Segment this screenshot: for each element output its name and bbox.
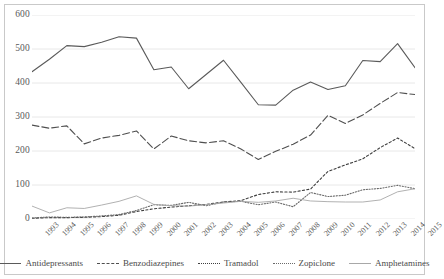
series-line-tramadol [32, 138, 415, 218]
legend-label: Tramadol [224, 258, 259, 268]
legend-label: Antidepressants [25, 258, 83, 268]
series-line-amphetamines [32, 189, 415, 213]
legend-label: Benzodiazepines [123, 258, 184, 268]
plot-area [32, 15, 415, 219]
x-axis-tick-label: 1993 [44, 221, 61, 238]
legend-item-amphetamines[interactable]: Amphetamines [349, 258, 430, 268]
x-axis-tick-label: 2000 [166, 221, 183, 238]
x-axis-tick-label: 2008 [305, 221, 322, 238]
legend-label: Amphetamines [375, 258, 430, 268]
y-axis-tick-label: 500 [2, 44, 30, 54]
legend-swatch-amphetamines [349, 263, 371, 264]
series-line-benzodiazepines [32, 93, 415, 160]
y-axis-tick-label: 0 [2, 214, 30, 224]
x-axis-tick-label: 1994 [61, 221, 78, 238]
x-axis-tick-label: 2002 [200, 221, 217, 238]
y-axis-labels: 6005004003002001000 [0, 0, 30, 240]
chart-legend: AntidepressantsBenzodiazepinesTramadolZo… [4, 255, 425, 271]
legend-swatch-antidepressants [0, 263, 21, 264]
x-axis-tick-label: 2012 [374, 221, 391, 238]
x-axis-tick-label: 2009 [322, 221, 339, 238]
x-axis-tick-label: 2011 [357, 221, 374, 238]
legend-item-tramadol[interactable]: Tramadol [198, 258, 259, 268]
x-axis-tick-label: 2001 [183, 221, 200, 238]
legend-item-zopiclone[interactable]: Zopiclone [273, 258, 336, 268]
x-axis-tick-label: 2006 [270, 221, 287, 238]
x-axis-tick-label: 2015 [427, 221, 444, 238]
x-axis-labels: 1993199419951996199719981999200020012002… [32, 221, 415, 253]
legend-swatch-tramadol [198, 263, 220, 264]
y-axis-tick-label: 200 [2, 146, 30, 156]
x-axis-tick-label: 1995 [78, 221, 95, 238]
y-axis-tick-label: 300 [2, 112, 30, 122]
y-axis-tick-label: 400 [2, 78, 30, 88]
y-axis-tick-label: 100 [2, 180, 30, 190]
y-axis-tick-label: 600 [2, 10, 30, 20]
legend-item-benzodiazepines[interactable]: Benzodiazepines [97, 258, 184, 268]
x-axis-tick-label: 1999 [148, 221, 165, 238]
x-axis-tick-label: 2010 [340, 221, 357, 238]
x-axis-tick-label: 2007 [287, 221, 304, 238]
x-axis-tick-label: 1997 [113, 221, 130, 238]
series-line-antidepressants [32, 37, 415, 105]
plot-svg [32, 15, 415, 219]
x-axis-tick-label: 2003 [218, 221, 235, 238]
x-axis-tick-label: 1996 [96, 221, 113, 238]
x-axis-tick-label: 2013 [392, 221, 409, 238]
x-axis-tick-label: 2005 [253, 221, 270, 238]
legend-swatch-benzodiazepines [97, 263, 119, 264]
legend-label: Zopiclone [299, 258, 336, 268]
legend-item-antidepressants[interactable]: Antidepressants [0, 258, 83, 268]
x-axis-tick-label: 2004 [235, 221, 252, 238]
x-axis-tick-label: 1998 [131, 221, 148, 238]
legend-swatch-zopiclone [273, 263, 295, 264]
